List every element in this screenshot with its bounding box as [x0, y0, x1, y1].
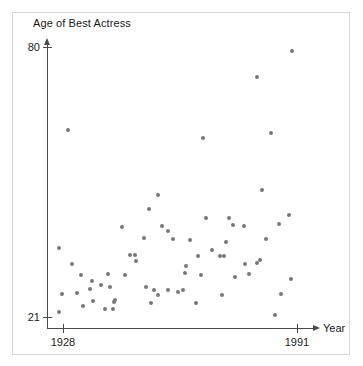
data-point [201, 136, 205, 140]
data-point [152, 288, 156, 292]
data-point [231, 223, 235, 227]
y-tick-mark-bottom [43, 317, 52, 318]
data-point [183, 271, 187, 275]
x-axis-label: Year [323, 322, 345, 334]
data-point [233, 275, 237, 279]
data-point [222, 254, 226, 258]
data-point [133, 253, 137, 257]
data-point [120, 225, 124, 229]
data-point [79, 273, 83, 277]
data-point [260, 188, 264, 192]
data-point [60, 292, 64, 296]
data-point [176, 290, 180, 294]
data-point [111, 307, 115, 311]
data-point [103, 307, 107, 311]
y-tick-label-80: 80 [14, 41, 40, 53]
data-point [224, 240, 228, 244]
data-point [57, 246, 61, 250]
data-point [171, 237, 175, 241]
x-axis-line [47, 328, 315, 329]
data-point [160, 224, 164, 228]
data-point [134, 259, 138, 263]
data-point [277, 222, 281, 226]
data-point [99, 283, 103, 287]
data-point [289, 277, 293, 281]
x-tick-label-1928: 1928 [41, 336, 85, 348]
data-point [196, 254, 200, 258]
data-point [156, 193, 160, 197]
data-point [75, 291, 79, 295]
data-point [269, 131, 273, 135]
data-point [220, 293, 224, 297]
data-point [57, 310, 61, 314]
data-point [108, 285, 112, 289]
data-point [66, 128, 70, 132]
data-point [166, 229, 170, 233]
data-point [188, 238, 192, 242]
data-point [181, 288, 185, 292]
data-point [81, 304, 85, 308]
data-point [204, 216, 208, 220]
y-tick-label-21: 21 [14, 311, 40, 323]
data-point [112, 300, 116, 304]
x-tick-mark-1928 [63, 324, 64, 333]
chart-title: Age of Best Actress [33, 17, 131, 29]
data-point [184, 264, 188, 268]
data-point [70, 262, 74, 266]
data-point [247, 272, 251, 276]
data-point [88, 287, 92, 291]
data-point [242, 224, 246, 228]
data-point [227, 216, 231, 220]
scatter-plot: Age of Best Actress 80 21 1928 1991 Year [0, 0, 363, 366]
x-tick-mark-1991 [297, 324, 298, 333]
data-point [279, 292, 283, 296]
x-axis-arrow-icon [313, 325, 320, 331]
data-point [255, 75, 259, 79]
data-point [264, 237, 268, 241]
y-axis-arrow-icon [44, 38, 50, 45]
data-point [149, 301, 153, 305]
data-point [194, 301, 198, 305]
data-point [156, 293, 160, 297]
data-point [144, 285, 148, 289]
data-point [128, 253, 132, 257]
data-point [210, 248, 214, 252]
data-point [287, 213, 291, 217]
data-point [258, 258, 262, 262]
data-point [123, 273, 127, 277]
data-point [166, 288, 170, 292]
data-point [147, 207, 151, 211]
data-point [106, 272, 110, 276]
data-point [142, 236, 146, 240]
data-point [243, 262, 247, 266]
data-point [91, 299, 95, 303]
y-tick-mark-top [43, 47, 52, 48]
data-point [90, 279, 94, 283]
x-tick-label-1991: 1991 [275, 336, 319, 348]
data-point [273, 313, 277, 317]
data-point [290, 49, 294, 53]
data-point [199, 273, 203, 277]
y-axis-line [47, 44, 48, 329]
